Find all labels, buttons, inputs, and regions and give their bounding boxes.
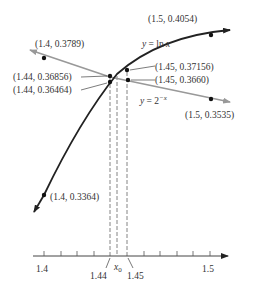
point-ln-1.45 xyxy=(125,68,129,72)
point-exp-1.44 xyxy=(108,80,112,84)
label-ln-1.5: (1.5, 0.4054) xyxy=(148,14,197,25)
label-exp-1.5: (1.5, 0.3535) xyxy=(185,110,234,121)
root-label-x0: x0 xyxy=(113,262,122,274)
point-exp-1.45 xyxy=(126,78,130,82)
point-ln-1.5 xyxy=(209,33,213,37)
diagram-canvas: (1.5, 0.4054) (1.4, 0.3789) (1.44, 0.368… xyxy=(0,0,260,300)
point-exp-1.4 xyxy=(42,56,46,60)
label-exp-1.44: (1.44, 0.36464) xyxy=(13,85,72,96)
dashed-guides xyxy=(110,72,127,256)
label-ln-1.44: (1.44, 0.36856) xyxy=(13,72,72,83)
exp2-curve-label: y = 2−x xyxy=(139,94,168,106)
label-ln-1.4: (1.4, 0.3364) xyxy=(50,192,99,203)
point-ln-1.44 xyxy=(108,74,112,78)
tick-label-1.4: 1.4 xyxy=(36,264,48,274)
ln-curve-tail xyxy=(34,195,44,212)
label-exp-1.4: (1.4, 0.3789) xyxy=(35,39,84,50)
mark-label-1.44: 1.44 xyxy=(90,271,107,281)
ln-curve-label: y = ln x xyxy=(141,39,171,49)
label-ln-1.45: (1.45, 0.37156) xyxy=(155,62,214,73)
point-exp-1.5 xyxy=(209,97,213,101)
tick-label-1.5: 1.5 xyxy=(202,264,214,274)
mark-label-1.45: 1.45 xyxy=(127,271,144,281)
label-exp-1.45: (1.45, 0.3660) xyxy=(155,75,209,86)
x-axis xyxy=(33,251,228,268)
point-ln-1.4 xyxy=(42,193,46,197)
